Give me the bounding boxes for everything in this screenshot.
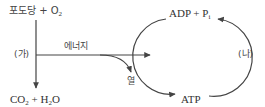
products-label: CO2 + H2O <box>10 94 60 105</box>
process-label-b: (나) <box>238 50 253 59</box>
heat-label: 열 <box>127 77 135 86</box>
reactants-label: 포도당 + O2 <box>9 5 62 16</box>
diagram-canvas <box>0 0 265 107</box>
atp-label: ATP <box>181 94 201 105</box>
heat-arrow <box>100 55 131 72</box>
process-label-a: (가) <box>14 50 29 59</box>
atp-synthesis-arc <box>133 19 175 94</box>
energy-label: 에너지 <box>64 42 88 51</box>
adp-pi-label: ADP + Pi <box>169 8 210 19</box>
